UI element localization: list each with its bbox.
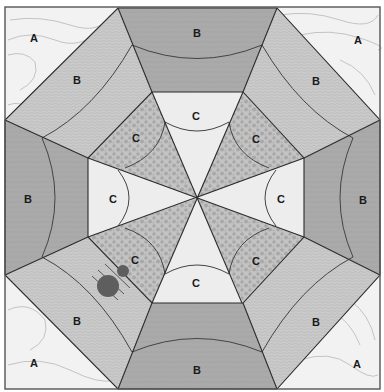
- label-b-diag-br: B: [312, 316, 320, 328]
- label-b-left: B: [24, 193, 32, 205]
- label-c-top: C: [192, 110, 200, 122]
- marker-large-circle: [97, 275, 119, 297]
- label-c-left: C: [109, 193, 117, 205]
- label-b-diag-bl: B: [73, 315, 81, 327]
- label-a-tr: A: [354, 34, 362, 46]
- label-c-diag-tl: C: [132, 132, 140, 144]
- label-c-diag-tr: C: [252, 133, 260, 145]
- label-a-br: A: [353, 358, 361, 370]
- quilt-block-diagram: A A A A B B B B B B B B C C C C C C C C: [0, 0, 384, 392]
- label-b-top: B: [193, 27, 201, 39]
- label-b-bottom: B: [193, 364, 201, 376]
- label-c-right: C: [277, 193, 285, 205]
- label-a-tl: A: [30, 32, 38, 44]
- label-c-bottom: C: [192, 277, 200, 289]
- label-b-right: B: [359, 194, 367, 206]
- label-b-diag-tl: B: [73, 74, 81, 86]
- marker-small-circle: [117, 265, 129, 277]
- label-b-diag-tr: B: [312, 75, 320, 87]
- label-a-bl: A: [30, 357, 38, 369]
- label-c-diag-br: C: [252, 255, 260, 267]
- quilt-svg: A A A A B B B B B B B B C C C C C C C C: [0, 0, 384, 392]
- label-c-diag-bl: C: [131, 254, 139, 266]
